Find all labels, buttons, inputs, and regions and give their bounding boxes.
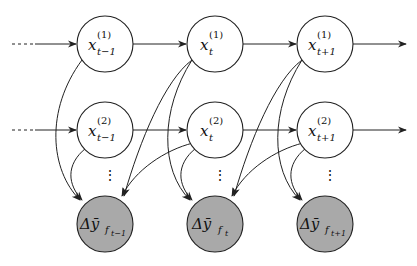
graphical-model-diagram: x (1) t−1 x (1) t x (1) t+1 x (2) t−1 x …	[0, 0, 417, 266]
observed-node-t-minus-1: Δȳ f t−1	[77, 196, 133, 252]
observed-node-t-plus-1: Δȳ f t+1	[297, 196, 353, 252]
svg-text:(1): (1)	[317, 29, 331, 40]
observed-node-t: Δȳ f t	[187, 196, 243, 252]
svg-text:t−1: t−1	[97, 132, 116, 143]
svg-text:Δȳ: Δȳ	[79, 215, 100, 233]
svg-text:x: x	[200, 122, 209, 140]
svg-text:t+1: t+1	[317, 46, 336, 57]
svg-text:x: x	[88, 122, 97, 140]
svg-text:x: x	[200, 36, 209, 54]
svg-text:(2): (2)	[97, 115, 111, 126]
node-x1-t-minus-1: x (1) t−1	[77, 16, 133, 72]
node-x1-t: x (1) t	[187, 16, 243, 72]
svg-text:(1): (1)	[209, 29, 223, 40]
node-x2-t-plus-1: x (2) t+1	[297, 102, 353, 158]
svg-text:t+1: t+1	[317, 132, 336, 143]
svg-text:x: x	[308, 36, 317, 54]
svg-text:x: x	[88, 36, 97, 54]
svg-text:t+1: t+1	[331, 229, 346, 238]
svg-text:(2): (2)	[317, 115, 331, 126]
svg-text:Δȳ: Δȳ	[299, 215, 320, 233]
svg-text:(2): (2)	[209, 115, 223, 126]
node-x2-t: x (2) t	[187, 102, 243, 158]
svg-text:x: x	[308, 122, 317, 140]
vdots-t-minus-1: ⋮	[103, 167, 117, 183]
node-x2-t-minus-1: x (2) t−1	[77, 102, 133, 158]
temporal-edges	[133, 44, 406, 130]
svg-text:t−1: t−1	[97, 46, 116, 57]
vdots-t-plus-1: ⋮	[323, 167, 337, 183]
svg-text:Δȳ: Δȳ	[191, 215, 212, 233]
svg-text:(1): (1)	[97, 29, 111, 40]
node-x1-t-plus-1: x (1) t+1	[297, 16, 353, 72]
vdots-t: ⋮	[213, 167, 227, 183]
svg-text:t−1: t−1	[111, 229, 126, 238]
